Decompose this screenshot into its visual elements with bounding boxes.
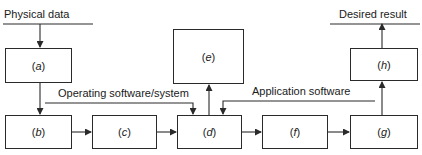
box-g: (g)	[350, 115, 418, 149]
output-label: Desired result	[339, 9, 407, 20]
box-a-label: (a)	[32, 60, 45, 72]
arrow-operating-to-d	[45, 103, 193, 114]
box-h: (h)	[350, 48, 418, 81]
box-a: (a)	[5, 48, 72, 83]
operating-software-label: Operating software/system	[58, 88, 189, 99]
box-f: (f)	[262, 115, 328, 149]
input-label: Physical data	[4, 9, 69, 20]
box-b-label: (b)	[32, 126, 45, 138]
box-c-label: (c)	[118, 126, 131, 138]
box-c: (c)	[92, 115, 157, 149]
box-b: (b)	[5, 115, 72, 149]
flow-diagram: Physical data Desired result Operating s…	[0, 0, 422, 155]
box-e-label: (e)	[202, 51, 215, 63]
box-h-label: (h)	[377, 59, 390, 71]
box-g-label: (g)	[377, 126, 390, 138]
application-software-label: Application software	[252, 86, 350, 97]
box-e: (e)	[173, 29, 244, 84]
box-d-label: (d)	[203, 126, 216, 138]
arrow-application-to-d	[223, 101, 375, 114]
box-d: (d)	[177, 115, 242, 149]
box-f-label: (f)	[290, 126, 300, 138]
